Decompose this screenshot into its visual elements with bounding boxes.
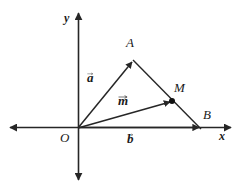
vector-arrow-accent-m	[118, 94, 128, 99]
y-axis-label: y	[64, 12, 69, 24]
point-label-o: O	[60, 131, 69, 144]
vector-label-a: a	[87, 71, 94, 84]
vector-arrow-accent-a	[87, 71, 94, 76]
point-label-b: B	[203, 108, 211, 121]
vector-label-m: m	[118, 94, 128, 107]
vector-label-b: b	[127, 132, 134, 145]
segment-ab	[133, 60, 201, 129]
point-label-m: M	[174, 81, 185, 94]
point-label-a: A	[126, 36, 134, 49]
vector-arrow-accent-b	[127, 132, 134, 137]
x-axis-label: x	[219, 130, 225, 142]
vector-diagram: O A B M y x a b m	[0, 0, 240, 196]
point-m-dot	[169, 98, 175, 104]
